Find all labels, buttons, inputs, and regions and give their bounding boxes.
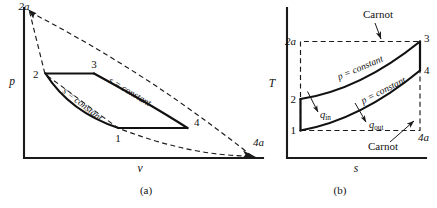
panel-a-state-2a: 2a	[19, 0, 31, 12]
panel-a-state-4a: 4a	[253, 136, 265, 148]
panel-b-state-3: 3	[424, 32, 430, 44]
panel-b: 2a 2 1 3 4 4a T s p = constant p = const…	[269, 8, 430, 197]
panel-a-state-4: 4	[194, 116, 200, 128]
panel-b-carnot-top-label: Carnot	[363, 8, 393, 20]
panel-b-carnot-bottom-label: Carnot	[368, 140, 398, 152]
panel-a-annotation-isentrope-lower: s = constant	[61, 85, 105, 123]
panel-a: 2a 2 3 1 4 4a p v s = constant s = const…	[8, 0, 264, 197]
panel-a-ylabel: p	[8, 75, 15, 88]
panel-a-axes	[24, 8, 263, 158]
panel-b-state-1: 1	[291, 124, 297, 136]
panel-b-carnot-top-leader	[375, 23, 381, 39]
panel-b-qout-subscript: out	[374, 124, 383, 132]
panel-a-label: (a)	[140, 184, 153, 197]
panel-b-qin-subscript: in	[325, 114, 331, 122]
panel-b-qin-leader	[308, 92, 319, 113]
panel-a-state-1: 1	[115, 132, 121, 144]
panel-b-state-4: 4	[424, 64, 430, 76]
panel-b-state-2a: 2a	[285, 35, 297, 47]
thermodynamics-figure: 2a 2 3 1 4 4a p v s = constant s = const…	[0, 0, 437, 208]
panel-b-carnot-bottom-leader	[390, 121, 414, 142]
panel-b-ylabel: T	[269, 77, 277, 89]
panel-a-carnot-lower-dashed	[30, 12, 252, 157]
panel-b-state-4a: 4a	[418, 131, 430, 143]
panel-b-state-2: 2	[291, 93, 297, 105]
figure-canvas: 2a 2 3 1 4 4a p v s = constant s = const…	[0, 0, 437, 208]
panel-b-label: (b)	[334, 184, 347, 197]
panel-a-xlabel: v	[137, 162, 143, 174]
panel-b-qin-label: qin	[320, 109, 331, 122]
panel-b-annotation-isobar-upper: p = constant	[335, 53, 385, 83]
panel-a-state-3: 3	[91, 58, 97, 70]
panel-a-state-2: 2	[33, 68, 39, 80]
panel-b-xlabel: s	[354, 162, 359, 174]
panel-a-carnot-upper-dashed	[30, 12, 252, 156]
